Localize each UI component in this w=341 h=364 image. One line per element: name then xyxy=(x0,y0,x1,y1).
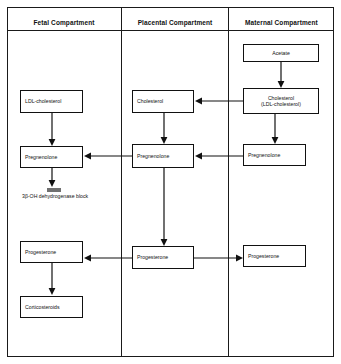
annotation-enzyme-block: 3β-OH dehydrogenase block xyxy=(22,193,117,200)
arrow-placental-progesterone-to-fetal-progesterone xyxy=(83,253,133,263)
arrow-acetate-to-maternal-cholesterol xyxy=(276,62,286,89)
node-fetal-progesterone: Progesterone xyxy=(20,241,83,263)
arrow-maternal-cholesterol-to-placental-cholesterol xyxy=(194,96,244,106)
arrow-placental-cholesterol-to-placental-pregnenolone xyxy=(159,113,169,145)
arrow-placental-pregnenolone-to-placental-progesterone xyxy=(159,168,169,248)
node-maternal-pregnenolone: Pregnenolone xyxy=(243,144,306,166)
divider-fetal-placental xyxy=(121,7,122,357)
arrow-fetal-pregnenolone-blocked xyxy=(47,168,63,192)
arrow-placental-progesterone-to-maternal-progesterone xyxy=(194,253,244,263)
maternal-cholesterol-line1: Cholesterol xyxy=(268,95,294,101)
arrow-maternal-cholesterol-to-maternal-pregnenolone xyxy=(270,114,280,145)
arrow-maternal-pregnenolone-to-placental-pregnenolone xyxy=(194,151,244,161)
node-maternal-progesterone: Progesterone xyxy=(243,245,306,267)
node-corticosteroids: Corticosteroids xyxy=(20,296,83,318)
header-rule-placental xyxy=(122,30,228,31)
node-fetal-ldl-cholesterol: LDL-cholesterol xyxy=(20,90,83,113)
arrow-fetal-ldl-to-fetal-pregnenolone xyxy=(47,113,57,147)
header-rule-maternal xyxy=(229,30,334,31)
divider-placental-maternal xyxy=(228,7,229,357)
diagram-canvas: Fetal Compartment Placental Compartment … xyxy=(0,0,341,364)
node-acetate: Acetate xyxy=(243,44,319,62)
maternal-cholesterol-line2: (LDL-cholesterol) xyxy=(261,101,301,107)
node-placental-progesterone: Progesterone xyxy=(132,246,194,269)
header-rule-fetal xyxy=(7,30,121,31)
column-header-placental: Placental Compartment xyxy=(122,19,228,26)
column-header-maternal: Maternal Compartment xyxy=(229,19,334,26)
arrow-placental-pregnenolone-to-fetal-pregnenolone xyxy=(83,151,133,161)
node-fetal-pregnenolone: Pregnenolone xyxy=(20,146,83,168)
node-placental-pregnenolone: Pregnenolone xyxy=(132,144,194,168)
arrow-fetal-progesterone-to-corticosteroids xyxy=(47,263,57,297)
node-placental-cholesterol: Cholesterol xyxy=(132,90,194,113)
column-header-fetal: Fetal Compartment xyxy=(7,19,121,26)
node-maternal-cholesterol: Cholesterol (LDL-cholesterol) xyxy=(243,88,319,114)
